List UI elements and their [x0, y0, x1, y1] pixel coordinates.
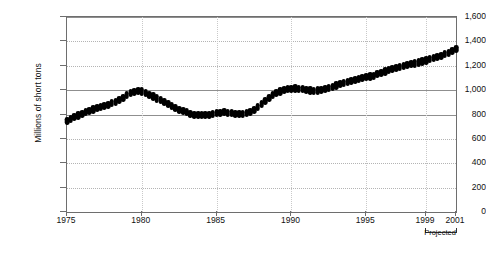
x-axis-tick-mark [290, 211, 291, 216]
vertical-gridline [366, 17, 367, 212]
gridline [67, 139, 456, 140]
vertical-gridline [426, 17, 427, 212]
x-axis-tick-mark [66, 211, 67, 216]
x-axis-tick-mark [365, 211, 366, 216]
projected-annotation-label: Projected [424, 228, 456, 237]
x-axis-tick-mark [141, 211, 142, 216]
gridline [67, 41, 456, 42]
x-axis-tick-label: 1995 [356, 215, 375, 225]
x-axis-tick-label: 1999 [416, 215, 435, 225]
vertical-gridline [142, 17, 143, 212]
x-axis-tick-mark [455, 211, 456, 216]
y-axis-title: Millions of short tons [33, 3, 43, 203]
x-axis-tick-mark [216, 211, 217, 216]
gridline [67, 17, 456, 18]
x-axis-tick-mark [425, 211, 426, 216]
data-point-marker [454, 45, 459, 53]
chart-container: Millions of short tons 02004006008001,00… [0, 0, 486, 255]
vertical-gridline [291, 17, 292, 212]
x-axis-tick-label: 1990 [281, 215, 300, 225]
x-axis-tick-label: 1975 [57, 215, 76, 225]
x-axis-tick-label: 1980 [131, 215, 150, 225]
plot-area [66, 16, 457, 213]
gridline [67, 188, 456, 189]
gridline [67, 115, 456, 116]
x-axis-tick-label: 2001 [446, 215, 465, 225]
x-axis-tick-label: 1985 [206, 215, 225, 225]
gridline [67, 163, 456, 164]
